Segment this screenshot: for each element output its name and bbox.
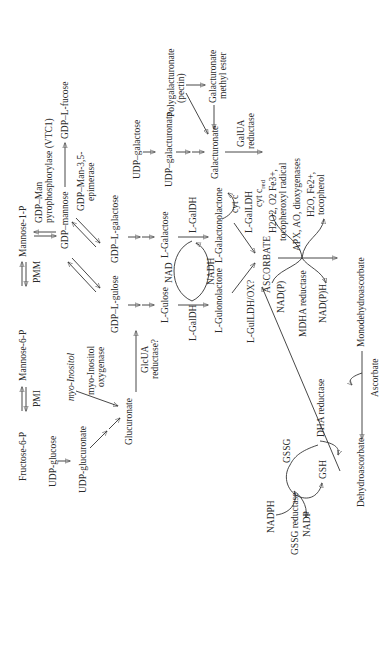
cofactor-nadp-red: NAD(P)H — [318, 284, 328, 323]
cofactor-nadp: NADP — [302, 511, 312, 537]
node-gdp-l-fucose: GDP–L-fucose — [60, 81, 70, 139]
node-udp-galactose: UDP–galactose — [132, 120, 142, 179]
enzyme-galua-reductase-1: GalUA — [236, 120, 246, 147]
enzyme-gssg-reductase: GSSG reductase — [290, 492, 300, 555]
cofactor-nadph: NADPH — [266, 500, 276, 533]
enzyme-l-galdh-right: L-GalDH — [188, 197, 198, 233]
node-udp-glucose: UDP-glucose — [48, 436, 58, 487]
enzyme-dha-reductase: DHA reductase — [316, 379, 326, 437]
cofactor-nad: NAD — [164, 262, 174, 283]
enzyme-gdp-man-pyrophosphorylase-2: pyrophosphorylase (VTC1) — [44, 118, 54, 223]
node-galacturonate: Galacturonate — [210, 126, 220, 179]
node-gdp-mannose: GDP–mannose — [60, 191, 70, 249]
enzyme-glcua-reductase-2: reductase? — [150, 339, 160, 379]
pathway-diagram: Fructose-6-P Mannose-6-P PMI Mannose-1-P… — [0, 0, 389, 663]
node-mannose-6p: Mannose-6-P — [18, 330, 28, 381]
node-ascorbate: ASCORBATE — [262, 236, 272, 293]
enzyme-mdha-reductase: MDHA reductase — [298, 270, 308, 337]
node-galacturonate-methyl-ester-1: Galacturonate — [208, 50, 218, 103]
node-myo-inositol: myo-Inositol — [66, 353, 76, 401]
enzyme-glcua-reductase-1: GlcUA — [140, 346, 150, 373]
node-l-gulose: L-Gulose — [160, 287, 170, 323]
enzyme-l-galdh-left: L-GalDH — [188, 305, 198, 341]
enzyme-myo-inositol-oxygenase-1: myo-Inositol — [86, 346, 96, 395]
node-mannose-1p: Mannose-1-P — [18, 206, 28, 257]
enzyme-l-galldh: L-GalLDH — [244, 191, 254, 233]
cofactor-nadp-ox: NAD(P) — [276, 281, 286, 313]
oxidants-line-1: H2O2, O2 Fe3+, — [268, 169, 278, 233]
node-dehydroascorbate: Dehydroascorbate — [356, 438, 366, 507]
node-ascorbate-small: Ascorbate — [370, 358, 380, 397]
enzyme-l-gulldh: L-GulLDH/OX? — [246, 280, 256, 343]
enzyme-epimerase-1: GDP–Man-3,5- — [76, 152, 86, 211]
node-udp-glucuronate: UDP-glucuronate — [78, 426, 88, 493]
enzyme-gdp-man-pyrophosphorylase-1: GDP–Man — [34, 182, 44, 223]
node-gssg: GSSG — [282, 439, 292, 463]
enzyme-pmm: PMM — [32, 261, 42, 283]
enzyme-pmi: PMI — [32, 390, 42, 407]
node-gdp-l-gulose: GDP–L-gulose — [110, 275, 120, 333]
node-monodehydroascorbate: Monodehydroascorbate — [356, 257, 366, 347]
products-line-2: tocopherol — [316, 174, 326, 215]
node-udp-galacturonate: UDP–galacturonate — [164, 112, 174, 187]
enzyme-epimerase-2: epimerase — [86, 162, 96, 201]
enzyme-galua-reductase-2: reductase — [246, 113, 256, 149]
enzyme-apx-ao-dioxygenases: APX, AO, dioxygenases — [292, 158, 302, 251]
node-gdp-l-galactose: GDP–L-galactose — [110, 195, 120, 263]
enzyme-myo-inositol-oxygenase-2: oxygenase — [96, 347, 106, 387]
node-l-galactonolactone: L-Galactonolactone — [214, 188, 224, 263]
node-galacturonate-methyl-ester-2: methyl ester — [218, 52, 228, 99]
products-line-1: H2O, Fe2+, — [306, 172, 316, 217]
node-glucuronate: Glucuronate — [124, 398, 134, 445]
node-polygalacturonate: Polygalacturonate — [166, 48, 176, 117]
cofactor-cyt-c: cyt c — [230, 195, 240, 213]
node-l-gulonolactone: L-Gulonolactone — [214, 268, 224, 333]
node-l-galactose: L-Galactose — [160, 212, 170, 258]
node-gsh: GSH — [318, 460, 328, 479]
oxidants-line-2: tocopheroxyl radical — [278, 163, 288, 241]
node-pectin: (pectin) — [176, 73, 186, 103]
cofactor-cyt-c-red: cyt cred — [254, 180, 268, 207]
node-fructose-6p: Fructose-6-P — [18, 432, 28, 481]
